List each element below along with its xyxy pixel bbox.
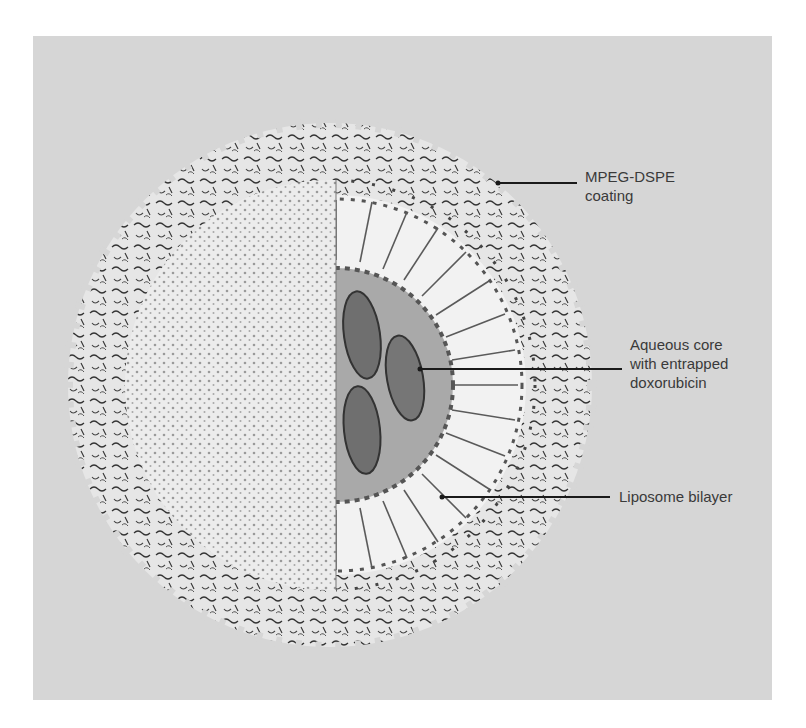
label-mpeg-dspe-coating: MPEG-DSPE coating — [585, 167, 675, 205]
label-line: Liposome bilayer — [619, 487, 732, 506]
leader-dot-mpeg — [496, 181, 501, 186]
leader-dot-bilayer — [440, 495, 445, 500]
label-aqueous-core: Aqueous core with entrapped doxorubicin — [630, 335, 728, 392]
leader-dot-core — [418, 367, 423, 372]
label-line: doxorubicin — [630, 373, 728, 392]
label-line: MPEG-DSPE — [585, 167, 675, 186]
label-line: Aqueous core — [630, 335, 728, 354]
label-line: coating — [585, 186, 675, 205]
label-line: with entrapped — [630, 354, 728, 373]
label-liposome-bilayer: Liposome bilayer — [619, 487, 732, 506]
